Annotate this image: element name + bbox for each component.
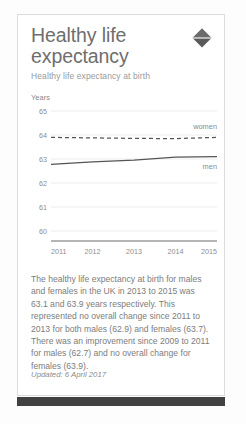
x-tick-2014: 2014 [168, 247, 184, 256]
series-label-men: men [203, 162, 217, 171]
diamond-expand-icon[interactable] [190, 26, 214, 50]
y-tick-65: 65 [39, 107, 47, 116]
series-line-men [51, 157, 217, 165]
page-title: Healthy life expectancy [31, 25, 171, 67]
footer-bar [17, 397, 225, 406]
x-tick-2013: 2013 [126, 247, 142, 256]
x-tick-2012: 2012 [85, 247, 101, 256]
chart-gridlines [51, 111, 217, 231]
line-chart: 65 64 63 62 61 60 women men [25, 93, 221, 263]
description-text: The healthy life expectancy at birth for… [31, 273, 211, 372]
page-background: Healthy life expectancy Healthy life exp… [0, 0, 246, 424]
card-subtitle: Healthy life expectancy at birth [31, 71, 211, 81]
x-tick-2011: 2011 [51, 247, 66, 256]
series-label-women: women [192, 122, 217, 131]
updated-timestamp: Updated: 6 April 2017 [31, 370, 106, 379]
x-axis-ticks: 2011 2012 2013 2014 2015 [51, 247, 217, 256]
x-tick-2015: 2015 [201, 247, 217, 256]
y-tick-61: 61 [39, 203, 47, 212]
y-tick-62: 62 [39, 179, 47, 188]
y-axis-ticks: 65 64 63 62 61 60 [39, 107, 47, 236]
chart-container: Years 65 64 63 [25, 93, 221, 263]
statistic-card: Healthy life expectancy Healthy life exp… [17, 14, 225, 396]
y-tick-60: 60 [39, 227, 47, 236]
y-tick-63: 63 [39, 155, 47, 164]
series-line-women [51, 137, 217, 138]
y-tick-64: 64 [39, 131, 47, 140]
card-inner: Healthy life expectancy Healthy life exp… [18, 15, 224, 395]
